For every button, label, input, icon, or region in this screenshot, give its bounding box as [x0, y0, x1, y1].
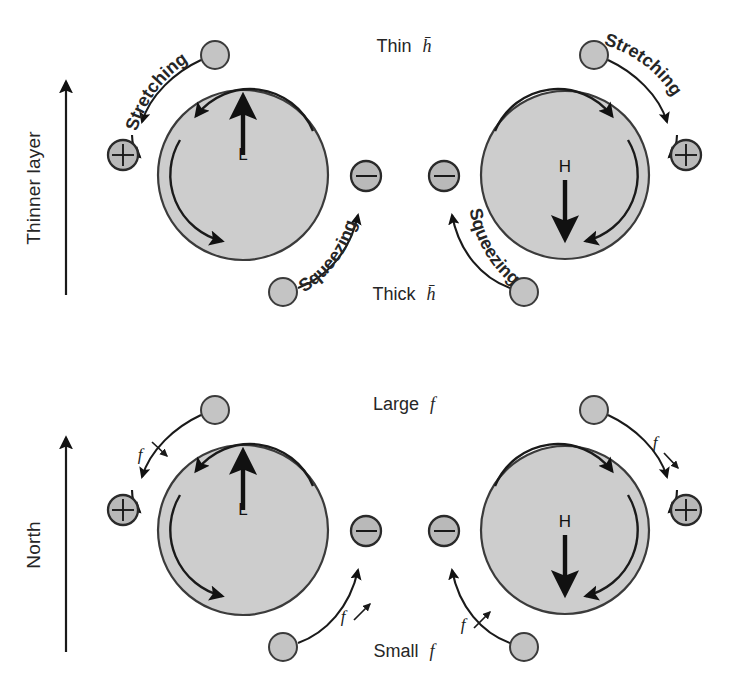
parcel-source-stretching-tl: [201, 41, 229, 69]
annotation-large-f: Large f: [373, 394, 438, 414]
axis-north: North: [23, 438, 66, 652]
axis-label-north: North: [23, 521, 44, 568]
center-label-high-br: H: [559, 512, 571, 531]
panel-top-right: H Stretching Squeezing: [429, 29, 701, 306]
f-label-top-bl: f: [138, 445, 145, 464]
f-label-bottom-br: f: [461, 615, 468, 634]
parcel-source-squeezing-tl: [269, 278, 297, 306]
axis-label-thinner-layer: Thinner layer: [23, 131, 44, 245]
panel-bottom-left: L f f: [108, 396, 381, 661]
annotation-small-f: Small f: [373, 641, 437, 661]
parcel-source-top-br: [580, 396, 608, 424]
parcel-source-bottom-br: [510, 633, 538, 661]
parcel-source-bottom-bl: [269, 633, 297, 661]
center-label-low-tl: L: [238, 145, 247, 164]
parcel-source-top-bl: [201, 396, 229, 424]
panel-top-left: L Stretching Squeezing: [108, 41, 381, 306]
axis-thinner-layer: Thinner layer: [23, 82, 66, 295]
annotation-thin-h: Thin h̄: [376, 36, 431, 56]
annotation-thick-h: Thick h̄: [372, 284, 435, 304]
f-label-bottom-bl: f: [341, 607, 348, 626]
center-label-low-bl: L: [238, 500, 247, 519]
f-up-arrow-bl: [354, 604, 370, 620]
f-label-top-br: f: [653, 433, 660, 452]
diagram-svg: L Stretching Squeezing H: [0, 0, 739, 685]
f-down-arrow-br: [664, 453, 678, 468]
panel-bottom-right: H f f: [429, 396, 701, 661]
center-label-high-tr: H: [559, 157, 571, 176]
figure-canvas: L Stretching Squeezing H: [0, 0, 739, 685]
